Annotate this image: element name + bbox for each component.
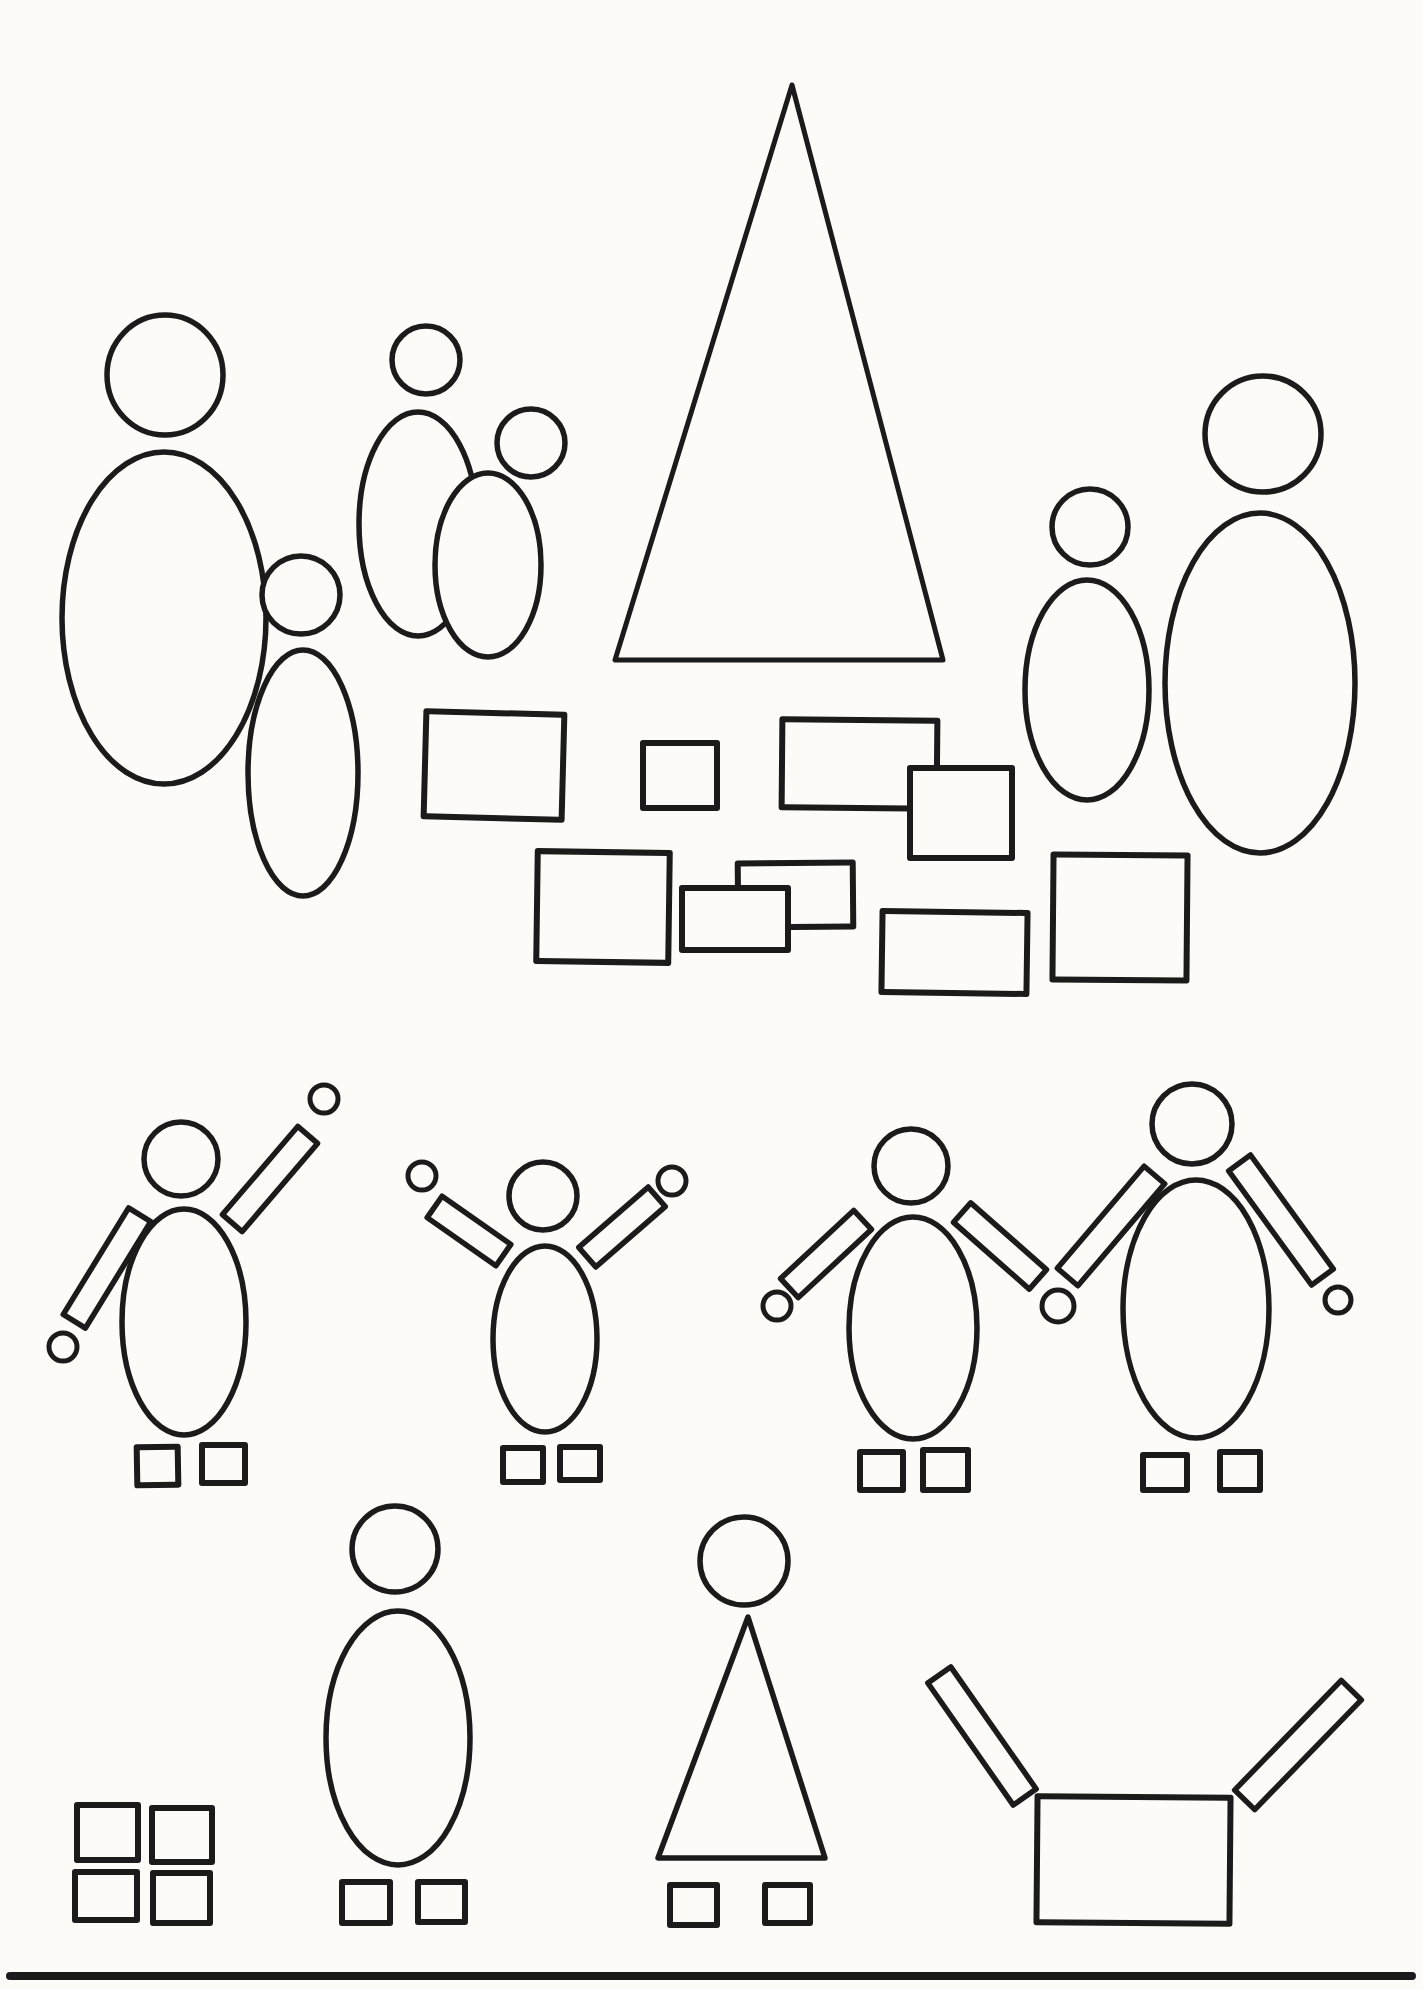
left-partner-body-oval xyxy=(849,1217,977,1439)
cheering-figure-foot-left xyxy=(503,1448,543,1482)
big-figure-head-circle xyxy=(1205,376,1321,492)
child-head-circle xyxy=(262,556,340,634)
left-partner-foot-right xyxy=(923,1450,968,1490)
simple-figure-triangle-body xyxy=(658,1517,825,1925)
waving-figure-body-oval xyxy=(122,1209,246,1435)
square-bottom-right xyxy=(153,1873,210,1923)
big-triangle xyxy=(615,85,943,660)
block-rect-4 xyxy=(910,768,1012,858)
couple-overlapping-figures xyxy=(359,326,565,657)
small-figure-head-circle xyxy=(1052,489,1128,565)
waving-figure-hand-up xyxy=(310,1085,338,1113)
left-partner-foot-left xyxy=(860,1452,903,1490)
small-figure-body-oval xyxy=(1025,580,1149,800)
left-partner-head-circle xyxy=(874,1129,948,1203)
cheering-figure-left-hand xyxy=(408,1162,436,1190)
oval-figure-foot-left xyxy=(342,1882,390,1923)
waving-figure-foot-left xyxy=(137,1447,179,1486)
block-rect-1 xyxy=(424,711,565,820)
box-figure-right-arm xyxy=(1235,1680,1362,1809)
cheering-figure-left-arm xyxy=(427,1196,511,1265)
couple-body-oval-right xyxy=(435,473,541,657)
triangle-figure-body xyxy=(658,1617,825,1858)
right-partner-body-oval xyxy=(1123,1180,1269,1438)
box-figure-body-rect xyxy=(1036,1796,1230,1924)
large-triangle-tent xyxy=(615,85,943,660)
block-rect-2 xyxy=(643,743,717,808)
big-figure-body-oval xyxy=(1165,513,1355,853)
block-rect-5 xyxy=(536,851,670,963)
right-partner-head-circle xyxy=(1152,1084,1232,1164)
family-parent-and-child xyxy=(62,315,358,896)
cheering-figure-right-arm xyxy=(579,1187,665,1267)
grid-of-four-squares xyxy=(75,1805,212,1923)
square-top-right xyxy=(152,1808,212,1862)
scanned-shapes-worksheet-page xyxy=(0,0,1423,1989)
right-partner-foot-left xyxy=(1143,1455,1187,1490)
cheering-figure-body-oval xyxy=(493,1246,597,1432)
right-partner-free-hand xyxy=(1325,1287,1351,1313)
waving-figure-hand-down xyxy=(49,1333,77,1361)
triangle-figure-head xyxy=(700,1517,788,1605)
square-top-left xyxy=(77,1805,138,1860)
simple-figure-oval-body xyxy=(326,1506,470,1923)
triangle-figure-foot-right xyxy=(765,1885,810,1923)
oval-figure-foot-right xyxy=(418,1882,465,1922)
couple-head-circle-right xyxy=(497,409,565,477)
square-bottom-left xyxy=(75,1872,137,1920)
parent-body-oval xyxy=(62,452,266,784)
left-partner-free-hand xyxy=(763,1292,791,1320)
cheering-figure-head-circle xyxy=(509,1162,577,1230)
figure-waving-one-arm-up xyxy=(49,1085,338,1485)
waving-figure-foot-right xyxy=(202,1445,245,1483)
box-torso-with-raised-arms xyxy=(928,1667,1362,1924)
oval-figure-head xyxy=(352,1506,438,1592)
figure-cheering-both-arms-up xyxy=(408,1162,686,1482)
block-rect-8 xyxy=(881,911,1027,994)
parent-head-circle xyxy=(107,315,223,435)
block-rect-9 xyxy=(1052,854,1187,980)
oval-figure-body xyxy=(326,1611,470,1865)
waving-figure-head-circle xyxy=(144,1122,218,1196)
waving-figure-raised-arm xyxy=(222,1126,317,1231)
couple-head-circle-left xyxy=(392,326,460,394)
cheering-figure-right-hand xyxy=(658,1167,686,1195)
box-figure-left-arm xyxy=(928,1667,1036,1805)
shape-figures-drawing xyxy=(0,0,1423,1989)
cheering-figure-foot-right xyxy=(560,1447,600,1480)
triangle-figure-foot-left xyxy=(670,1885,717,1925)
joined-hands-circle xyxy=(1042,1290,1074,1322)
pair-of-standing-figures-right xyxy=(1025,376,1355,853)
two-figures-holding-hands xyxy=(763,1084,1351,1490)
right-partner-foot-right xyxy=(1220,1452,1260,1490)
block-rect-7 xyxy=(682,888,788,950)
child-body-oval xyxy=(248,650,358,896)
